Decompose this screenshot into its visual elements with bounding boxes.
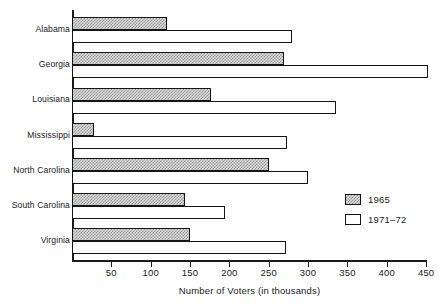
y-category-label: Virginia [2,235,70,245]
legend-label-1965: 1965 [368,194,390,205]
x-axis-title: Number of Voters (in thousands) [72,285,427,296]
x-tick-label: 50 [94,267,128,278]
bar-louisiana-1971-72 [72,101,336,114]
legend-swatch-1965 [345,194,361,205]
y-category-label: Mississippi [2,130,70,140]
legend-label-1971-72: 1971–72 [368,214,406,225]
bar-georgia-1971-72 [72,65,428,78]
y-category-label-group: Virginia [0,235,70,247]
bar-virginia-1971-72 [72,241,286,254]
x-tick-label: 300 [291,267,325,278]
legend-item-1971-72: 1971–72 [345,211,441,228]
bar-virginia-1965 [72,228,190,241]
x-tick-label: 150 [173,267,207,278]
y-category-label-group: Louisiana [0,94,70,106]
x-tick-label: 400 [370,267,404,278]
bar-north-carolina-1965 [72,158,269,171]
y-category-label: Louisiana [2,94,70,104]
x-tick-label: 350 [330,267,364,278]
x-tick-label: 250 [252,267,286,278]
y-category-label: North Carolina [2,165,70,175]
y-category-label-group: Mississippi [0,130,70,142]
legend-swatch-1971-72 [345,214,361,225]
y-category-label-group: Georgia [0,59,70,71]
bar-chart: 50 100 150 200 250 300 350 400 450 Alaba… [0,0,443,304]
legend: 1965 1971–72 [345,191,441,231]
x-tick-label: 100 [134,267,168,278]
y-category-label: South Carolina [2,200,70,210]
bar-mississippi-1971-72 [72,136,287,149]
y-category-label: Alabama [2,24,70,34]
bar-north-carolina-1971-72 [72,171,308,184]
bar-south-carolina-1965 [72,193,185,206]
x-axis-line [72,260,427,262]
x-tick-label: 450 [409,267,443,278]
y-category-label-group: South Carolina [0,200,70,212]
x-tick-label: 200 [212,267,246,278]
y-category-label-group: Alabama [0,24,70,36]
bar-mississippi-1965 [72,123,94,136]
bar-georgia-1965 [72,52,284,65]
legend-item-1965: 1965 [345,191,441,208]
bar-alabama-1965 [72,17,167,30]
bar-alabama-1971-72 [72,30,292,43]
y-category-label: Georgia [2,59,70,69]
bar-south-carolina-1971-72 [72,206,225,219]
y-category-label-group: North Carolina [0,165,70,177]
bar-louisiana-1965 [72,88,211,101]
